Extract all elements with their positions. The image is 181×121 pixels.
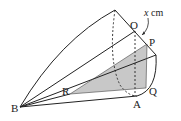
dimension-arrow bbox=[142, 18, 148, 35]
label-o: O bbox=[130, 19, 138, 31]
dimension-unit: cm bbox=[151, 7, 163, 18]
label-dimension: x cm bbox=[143, 7, 163, 18]
label-a: A bbox=[133, 98, 141, 110]
dimension-var: x bbox=[143, 7, 149, 18]
label-b: B bbox=[11, 102, 18, 114]
line-ba bbox=[20, 96, 137, 107]
label-p: P bbox=[149, 36, 155, 48]
label-q: Q bbox=[149, 85, 157, 97]
cone-diagram: O P Q A B R x cm bbox=[0, 0, 181, 121]
label-r: R bbox=[62, 85, 70, 97]
arrow-head-icon bbox=[142, 31, 145, 35]
